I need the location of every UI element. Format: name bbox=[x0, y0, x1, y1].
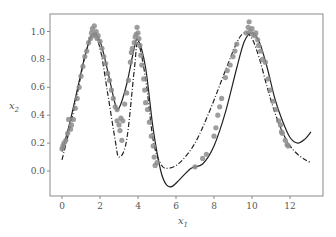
data-point bbox=[109, 87, 114, 92]
data-point bbox=[73, 106, 78, 111]
chart: 024681012 0.00.20.40.60.81.0 x1 x2 bbox=[0, 0, 336, 237]
x-tick-label: 10 bbox=[246, 201, 258, 211]
x-axis-label: x1 bbox=[178, 215, 188, 229]
y-tick-label: 1.0 bbox=[31, 27, 46, 37]
plot-area bbox=[50, 14, 323, 196]
data-point bbox=[92, 23, 97, 28]
data-point bbox=[130, 46, 135, 51]
data-point bbox=[122, 101, 127, 106]
data-point bbox=[66, 117, 71, 122]
data-point bbox=[247, 19, 252, 24]
data-point bbox=[124, 90, 129, 95]
data-point bbox=[137, 43, 142, 48]
data-point bbox=[219, 96, 224, 101]
data-point bbox=[141, 76, 146, 81]
data-point bbox=[63, 138, 68, 143]
data-point bbox=[266, 76, 271, 81]
data-point bbox=[84, 48, 89, 53]
data-point bbox=[103, 61, 108, 66]
data-point bbox=[232, 48, 237, 53]
data-point bbox=[134, 25, 139, 30]
data-point bbox=[145, 107, 150, 112]
data-point bbox=[234, 41, 239, 46]
data-point bbox=[105, 71, 110, 76]
data-point bbox=[253, 30, 258, 35]
x-tick-label: 0 bbox=[59, 201, 65, 211]
y-tick-label: 0.8 bbox=[31, 54, 46, 64]
data-point bbox=[82, 54, 87, 59]
data-point bbox=[217, 104, 222, 109]
y-axis: 0.00.20.40.60.81.0 bbox=[31, 27, 50, 177]
data-point bbox=[249, 26, 254, 31]
data-point bbox=[151, 143, 156, 148]
data-point bbox=[136, 36, 141, 41]
data-point bbox=[80, 64, 85, 69]
data-point bbox=[119, 138, 124, 143]
data-point bbox=[267, 87, 272, 92]
data-point bbox=[142, 87, 147, 92]
data-point bbox=[69, 122, 74, 127]
data-point bbox=[255, 37, 260, 42]
data-point bbox=[71, 117, 76, 122]
data-point bbox=[138, 53, 143, 58]
y-tick-label: 0.0 bbox=[31, 166, 46, 176]
y-axis-label: x2 bbox=[9, 100, 20, 114]
data-point bbox=[116, 122, 121, 127]
x-tick-label: 12 bbox=[284, 201, 295, 211]
data-point bbox=[143, 100, 148, 105]
y-tick-label: 0.4 bbox=[31, 110, 46, 120]
x-tick-label: 6 bbox=[173, 201, 179, 211]
data-point bbox=[270, 99, 275, 104]
data-point bbox=[273, 107, 278, 112]
data-point bbox=[154, 160, 159, 165]
data-point bbox=[256, 43, 261, 48]
data-point bbox=[223, 75, 228, 80]
data-point bbox=[107, 78, 112, 83]
data-point bbox=[192, 164, 197, 169]
data-point bbox=[263, 60, 268, 65]
data-point bbox=[115, 107, 120, 112]
data-point bbox=[75, 96, 80, 101]
data-point bbox=[126, 78, 131, 83]
data-point bbox=[135, 30, 140, 35]
data-point bbox=[286, 143, 291, 148]
data-point bbox=[99, 46, 104, 51]
data-point bbox=[132, 40, 137, 45]
data-point bbox=[211, 134, 216, 139]
data-point bbox=[258, 48, 263, 53]
data-point bbox=[228, 62, 233, 67]
data-point bbox=[101, 54, 106, 59]
x-axis: 024681012 bbox=[59, 196, 296, 211]
data-point bbox=[147, 120, 152, 125]
x-tick-label: 2 bbox=[97, 201, 103, 211]
data-point bbox=[204, 152, 209, 157]
data-point bbox=[149, 134, 154, 139]
data-point bbox=[111, 96, 116, 101]
data-point bbox=[213, 125, 218, 130]
data-point bbox=[139, 62, 144, 67]
data-point bbox=[200, 156, 205, 161]
data-point bbox=[128, 60, 133, 65]
data-point bbox=[77, 85, 82, 90]
data-point bbox=[96, 33, 101, 38]
y-tick-label: 0.6 bbox=[31, 82, 46, 92]
data-point bbox=[230, 54, 235, 59]
y-tick-label: 0.2 bbox=[31, 138, 45, 148]
data-point bbox=[215, 113, 220, 118]
x-tick-label: 4 bbox=[135, 201, 141, 211]
data-point bbox=[97, 39, 102, 44]
data-point bbox=[225, 68, 230, 73]
data-point bbox=[78, 74, 83, 79]
data-point bbox=[278, 122, 283, 127]
data-point bbox=[120, 118, 125, 123]
data-point bbox=[117, 128, 122, 133]
data-point bbox=[280, 131, 285, 136]
x-tick-label: 8 bbox=[211, 201, 217, 211]
data-point bbox=[152, 154, 157, 159]
